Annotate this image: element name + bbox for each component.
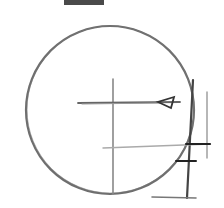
horizontal-arrow-line bbox=[78, 102, 180, 103]
pencil-sketch bbox=[0, 0, 224, 208]
tick-mark-lower bbox=[152, 197, 196, 198]
